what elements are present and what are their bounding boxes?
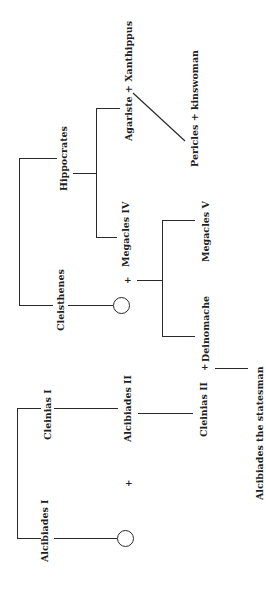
person-deinomache: Deinomache <box>200 296 211 362</box>
person-megacles-v: Megacles V <box>200 201 211 262</box>
family-tree-diagram: Hippocrates Agariste + Xanthippus Megacl… <box>0 0 266 598</box>
connector-line <box>162 336 195 337</box>
connector-line <box>54 408 118 409</box>
couple-pericles-kinswoman: Pericles + kinswoman <box>189 50 200 167</box>
connector-line <box>138 413 193 414</box>
marriage-plus-icon: + <box>125 479 133 488</box>
connector-line <box>17 538 41 539</box>
person-alcibiades-ii: Alcibiades II <box>122 375 133 442</box>
person-alcibiades-the-statesman: Alcibiades the statesman <box>254 366 265 500</box>
marriage-plus-icon: + <box>201 363 209 372</box>
person-cleinias-ii: Cleinias II <box>198 382 209 437</box>
connector-line <box>17 408 41 409</box>
connector-line <box>54 538 117 539</box>
person-cleisthenes: Cleisthenes <box>55 269 66 331</box>
connector-line <box>215 368 248 369</box>
unknown-female-circle-icon <box>117 530 134 547</box>
connector-line <box>162 220 195 221</box>
connector-line <box>68 305 113 306</box>
unknown-female-circle-icon <box>113 297 130 314</box>
person-cleinias-i: Cleinias I <box>42 389 53 440</box>
connector-line <box>137 280 162 281</box>
marriage-plus-icon: + <box>124 276 132 285</box>
person-alcibiades-i: Alcibiades I <box>39 499 50 562</box>
connector-line <box>17 408 18 539</box>
connector-line <box>162 220 163 337</box>
